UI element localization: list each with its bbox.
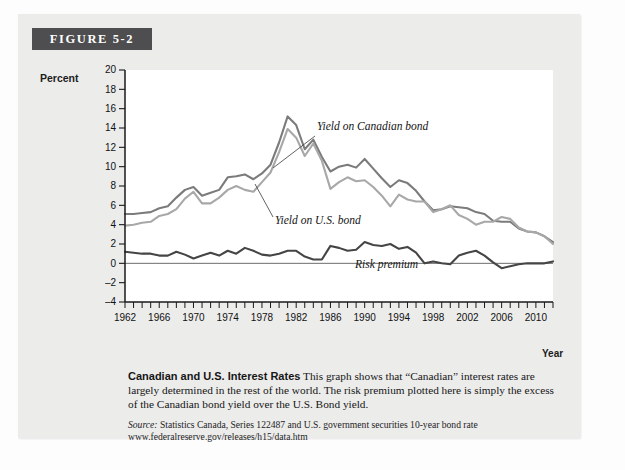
- y-tick-label: 8: [110, 180, 116, 191]
- y-tick-label: 2: [110, 238, 116, 249]
- chart-plot-area: –4–202468101214161820 196219661970197419…: [105, 64, 560, 326]
- y-axis-title: Percent: [40, 72, 79, 84]
- x-tick-label: 1974: [217, 312, 240, 323]
- y-tick-label: 20: [105, 64, 116, 75]
- x-tick-label: 2010: [525, 312, 548, 323]
- x-tick-label: 1990: [354, 312, 377, 323]
- x-axis-title: Year: [542, 348, 563, 359]
- y-tick-label: –4: [105, 296, 116, 307]
- x-tick-label: 2006: [491, 312, 514, 323]
- caption-source: Source: Statistics Canada, Series 122487…: [128, 419, 556, 443]
- y-tick-label: 14: [105, 122, 116, 133]
- x-tick-label: 1994: [388, 312, 411, 323]
- annotation-label: Yield on U.S. bond: [275, 214, 361, 226]
- figure-number-banner: FIGURE 5-2: [32, 28, 152, 50]
- x-tick-label: 1978: [251, 312, 274, 323]
- plot-background-rect: [125, 70, 553, 302]
- x-tick-label: 1962: [114, 312, 137, 323]
- plot-background: [125, 70, 553, 302]
- x-tick-label: 1982: [285, 312, 308, 323]
- figure-page: FIGURE 5-2 Percent Year –4–2024681012141…: [0, 0, 625, 470]
- y-tick-label: 0: [110, 258, 116, 269]
- y-tick-label: 6: [110, 200, 116, 211]
- y-tick-label: –2: [105, 277, 116, 288]
- x-tick-label: 1966: [148, 312, 171, 323]
- y-tick-label: 12: [105, 142, 116, 153]
- x-axis-tick-labels: 1962196619701974197819821986199019941998…: [114, 312, 548, 323]
- figure-panel: FIGURE 5-2 Percent Year –4–2024681012141…: [18, 14, 580, 438]
- interest-rates-line-chart: –4–202468101214161820 196219661970197419…: [105, 64, 560, 326]
- figure-number-label: FIGURE 5-2: [50, 32, 134, 47]
- annotation-label: Yield on Canadian bond: [317, 120, 429, 132]
- y-tick-label: 16: [105, 103, 116, 114]
- annotation-label: Risk premium: [354, 258, 418, 271]
- figure-caption: Canadian and U.S. Interest Rates This gr…: [128, 369, 556, 443]
- y-axis-tick-labels: –4–202468101214161820: [105, 64, 116, 307]
- y-tick-label: 4: [110, 219, 116, 230]
- x-tick-label: 2002: [456, 312, 479, 323]
- caption-main-text: Canadian and U.S. Interest Rates This gr…: [128, 369, 556, 412]
- caption-title: Canadian and U.S. Interest Rates: [128, 370, 300, 382]
- source-label: Source:: [128, 419, 157, 430]
- x-tick-label: 1970: [182, 312, 205, 323]
- y-tick-label: 18: [105, 84, 116, 95]
- x-tick-label: 1986: [319, 312, 342, 323]
- y-tick-label: 10: [105, 161, 116, 172]
- source-text: Statistics Canada, Series 122487 and U.S…: [128, 419, 478, 442]
- x-tick-label: 1998: [422, 312, 445, 323]
